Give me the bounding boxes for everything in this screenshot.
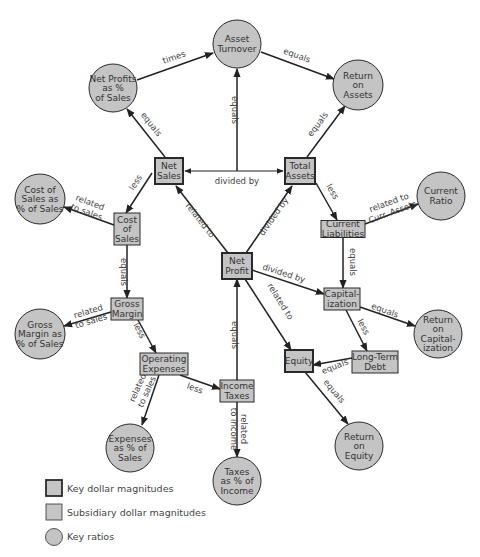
edge-label: equals [321,377,347,405]
edge-e19: equals [230,279,240,380]
edge-label: equals [348,248,358,277]
edge-e17: related to [245,279,296,350]
edge-e5: equals [305,106,345,157]
node-csps: Cost ofSales as% of Sales [15,174,65,224]
legend-key-dollar-swatch [46,480,62,496]
node-roa: ReturnonAssets [333,60,383,110]
edge-label: equals [320,356,350,376]
edge-e13: less [131,320,156,353]
node-cr: CurrentRatio [417,172,465,220]
legend-subsidiary-dollar-label: Subsidiary dollar magnitudes [67,507,206,518]
edge-e7: relatedto sales [64,192,114,225]
edge-e23: equals [305,372,348,424]
edge-e1: times [137,48,213,80]
edge-e8: less [316,182,341,220]
node-ns: NetSales [155,158,183,184]
node-roc: ReturnonCapital-ization [414,310,462,358]
node-eq: Equity [285,350,314,372]
edge-e9: related toCurr. Assets [364,189,419,225]
node-label: IncomeTaxes [220,381,254,401]
node-label: Equity [285,356,314,366]
edge-e16: less [346,310,372,351]
edge-label: equals [230,321,240,350]
divided-by-bar-edge: divided by [185,171,283,186]
legend-key-ratios-swatch [46,529,63,546]
node-label: OperatingExpenses [142,354,187,374]
edge-label: equals [370,301,400,320]
edge-e6: less [126,172,152,213]
node-ltd: Long-TermDebt [352,351,398,373]
edge-e21: relatedto sales [126,370,159,425]
edge-e11: equals [343,238,358,288]
node-gm: GrossMargin [111,298,143,320]
legend-subsidiary-dollar-swatch [46,504,62,520]
node-at: AssetTurnover [213,20,261,68]
legend: Key dollar magnitudes Subsidiary dollar … [46,480,206,546]
node-label: ReturnonCapital-ization [421,315,456,354]
edge-e2: equals [261,46,334,79]
edge-label: equals [119,258,129,287]
net-profit-diagonals: related to divided by [176,186,292,253]
edge-e4: equals [230,69,240,171]
node-roe: ReturnonEquity [335,422,383,470]
edge-label: less [131,321,148,341]
node-tpi: Taxesas % ofIncome [213,457,261,505]
edge-label: equals [230,96,240,125]
edge-e12: relatedto sales [64,302,111,331]
node-cap: Capital-ization [324,288,360,310]
edge-label: related to [265,281,295,321]
edge-label-related-to: related to [184,201,217,240]
edge-label: equals [305,110,330,139]
edge-label: relatedto income [229,408,249,450]
node-label: Taxesas % ofIncome [220,467,254,496]
edge-e20: less [180,375,220,396]
node-it: IncomeTaxes [220,380,254,402]
node-oe: OperatingExpenses [140,353,188,375]
node-cs: CostofSales [114,213,140,245]
node-label: GrossMargin [112,299,143,319]
node-np: NetProfit [222,253,252,279]
edge-e10: equals [119,245,129,298]
edge-label-divided-by: divided by [215,176,259,186]
edge-e14: divided by [252,262,324,294]
node-label: Capital-ization [325,289,360,309]
legend-key-ratios-label: Key ratios [67,531,114,542]
edge-label: relatedto sales [69,192,107,222]
edge-e15: equals [360,301,415,326]
edge-e3: equals [127,109,165,157]
edge-label: less [324,182,341,202]
financial-ratios-diagram: timesequalsequalsequalsequalslessrelated… [0,0,480,557]
node-cl: CurrentLiabilities [321,219,365,239]
node-label: TotalAssets [285,161,315,181]
node-label: CurrentLiabilities [322,219,365,239]
edge-label-divided-by-diag: divided by [257,195,291,237]
node-ta: TotalAssets [285,158,315,184]
node-gmps: GrossMargin as% of Sales [15,309,65,359]
edge-e18: equals [313,356,352,376]
node-npps: Net Profitsas %of Sales [89,64,137,112]
legend-key-dollar-label: Key dollar magnitudes [67,483,173,494]
node-eps: Expensesas % ofSales [106,424,154,472]
edge-label: relatedto sales [71,302,109,331]
edge-e22: relatedto income [229,402,249,457]
edge-label: equals [139,110,164,139]
edge-label: related toCurr. Assets [364,189,419,225]
